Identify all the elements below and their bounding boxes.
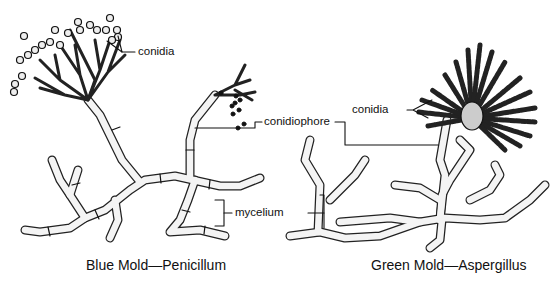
penicillium-hyphae [25, 95, 260, 238]
label-conidia-penicillium: conidia [138, 46, 174, 58]
label-conidiophore: conidiophore [264, 116, 330, 128]
penicillium-small-conidia [219, 91, 246, 130]
label-mycelium: mycelium [235, 207, 284, 219]
mold-illustration [0, 0, 554, 287]
caption-penicillium: Blue Mold—Penicillum [86, 258, 226, 272]
caption-aspergillus: Green Mold—Aspergillus [371, 258, 527, 272]
leader-lines [107, 36, 438, 228]
aspergillus-vesicle [461, 102, 483, 130]
aspergillus-conidial-chains [418, 45, 535, 150]
label-conidia-aspergillus: conidia [352, 104, 388, 116]
penicillium-hyphae-fill [25, 95, 260, 238]
